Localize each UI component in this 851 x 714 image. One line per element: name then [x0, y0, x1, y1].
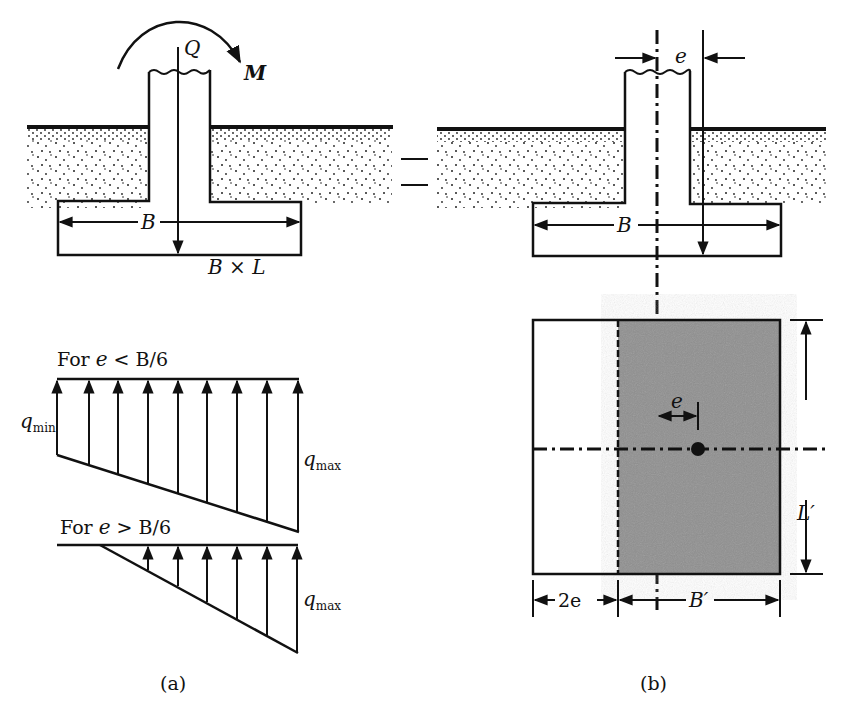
moment-m-label: M: [243, 61, 267, 85]
width-b-label-a: B: [140, 210, 156, 234]
caption-a: (a): [160, 672, 186, 694]
equals-sign: [401, 159, 428, 185]
eccentric-footing-diagram: Q M B B × L For e < B/6: [0, 0, 851, 714]
pressure-arrows-case2: [148, 547, 297, 652]
qmin-label: qmin: [20, 409, 56, 435]
effective-length-dimension: L′: [790, 320, 823, 574]
case1-title: For e < B/6: [57, 347, 168, 371]
soil-left-a: [27, 128, 149, 208]
panel-b: e B e L′: [437, 30, 826, 694]
load-point: [691, 442, 705, 456]
load-q-label: Q: [184, 36, 200, 60]
qmax-label-case2: qmax: [303, 587, 341, 613]
panel-a: Q M B B × L For e < B/6: [20, 22, 393, 694]
width-b-label-b: B: [616, 213, 632, 237]
pressure-distribution-e-less: For e < B/6 qmin qmax: [20, 347, 341, 532]
soil-left-b: [437, 130, 623, 208]
pressure-distribution-e-greater: For e > B/6 qmax: [57, 515, 341, 653]
soil-right-a: [210, 128, 392, 206]
offset-2e-label: 2e: [558, 589, 581, 611]
eccentricity-label: e: [675, 44, 687, 68]
caption-b: (b): [640, 672, 667, 694]
qmax-label-case1: qmax: [303, 447, 341, 473]
plan-eccentricity-label: e: [671, 389, 683, 413]
footing-plan-view: e: [533, 320, 825, 574]
footing-dims-label: B × L: [207, 255, 265, 279]
soil-right-b: [690, 130, 826, 206]
pressure-arrows-case1: [57, 381, 298, 532]
case2-title: For e > B/6: [60, 515, 171, 539]
column-break-line-a: [149, 70, 210, 74]
effective-width-label: B′: [688, 588, 709, 612]
effective-length-label: L′: [796, 501, 815, 525]
